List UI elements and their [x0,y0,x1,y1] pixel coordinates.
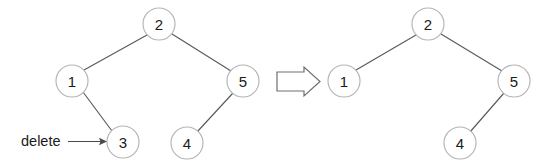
delete-label: delete [21,133,61,149]
tree-node[interactable]: 1 [56,65,88,97]
node-label: 1 [340,73,348,90]
tree-node[interactable]: 5 [227,65,259,97]
node-label: 5 [239,73,247,90]
node-label: 1 [68,73,76,90]
edge-2-to-5 [172,34,231,71]
block-arrow-right-icon [277,67,320,96]
node-label: 4 [183,135,191,152]
edge-2-to-5 [441,34,502,71]
edge-2-to-1 [356,35,416,70]
after-tree-edges [356,34,504,132]
tree-node[interactable]: 4 [171,127,203,159]
after-tree: 2 1 5 4 [328,8,530,159]
node-label: 5 [510,73,518,90]
edge-5-to-4 [470,93,504,132]
node-label: 2 [424,16,432,33]
after-tree-nodes: 2 1 5 4 [328,8,530,159]
edge-2-to-1 [84,35,147,70]
tree-node[interactable]: 2 [412,8,444,40]
tree-node-delete-target[interactable]: 3 [107,126,139,158]
tree-node[interactable]: 5 [498,65,530,97]
before-tree-edges [83,34,233,132]
edge-1-to-3 [83,92,112,131]
tree-deletion-diagram: 2 1 5 3 4 [0,0,553,168]
delete-annotation: delete [21,133,107,149]
edge-5-to-4 [197,93,233,132]
tree-node[interactable]: 1 [328,65,360,97]
before-tree: 2 1 5 3 4 [21,8,259,159]
node-label: 3 [119,134,127,151]
tree-node[interactable]: 2 [143,8,175,40]
tree-node[interactable]: 4 [444,127,476,159]
diagram-canvas: 2 1 5 3 4 [0,0,553,168]
block-arrow-shape [277,67,320,96]
node-label: 4 [456,135,464,152]
node-label: 2 [155,16,163,33]
before-tree-nodes: 2 1 5 3 4 [56,8,259,159]
arrow-right-icon [68,138,107,145]
